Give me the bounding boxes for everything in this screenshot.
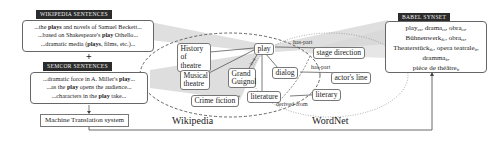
node-musical-theatre: Musical theatre bbox=[180, 70, 210, 90]
plus-sign: + bbox=[86, 51, 92, 62]
region-label-wikipedia: Wikipedia bbox=[172, 115, 213, 126]
semcor-sentences-tag: SemCor sentences bbox=[43, 62, 112, 71]
babel-synset-box: playen, dramaes, obraes, Bühnenwerkde, o… bbox=[385, 21, 487, 73]
node-actors-line: actor's line bbox=[331, 72, 371, 84]
node-dialog: dialog bbox=[272, 67, 298, 79]
node-crime-fiction: Crime fiction bbox=[191, 95, 239, 107]
babel-line-1: playen, dramaes, obraes, bbox=[389, 24, 483, 34]
node-history-of-theatre: History of theatre bbox=[177, 43, 211, 72]
semcor-sentence-3: ...characters in the play take... bbox=[35, 92, 143, 100]
wikipedia-sentences-tag: Wikipedia sentences bbox=[36, 10, 112, 19]
wikipedia-sentence-2: ...based on Shakespeare's play Othello..… bbox=[27, 31, 149, 39]
semcor-sentence-1: ...dramatic force in A. Miller's play... bbox=[35, 75, 143, 83]
babel-line-3: Theaterstückde, opera teatraleit, dramma… bbox=[389, 44, 483, 64]
node-stage-direction: stage direction bbox=[313, 47, 365, 59]
node-grand-guignol: Grand Guignol bbox=[228, 68, 256, 88]
wikipedia-sentences-box: ...the plays and novels of Samuel Becket… bbox=[22, 20, 154, 52]
region-label-wordnet: WordNet bbox=[312, 115, 348, 126]
node-play: play bbox=[254, 43, 274, 55]
babel-line-2: Bühnenwerkde, obraca, bbox=[389, 34, 483, 44]
edge-label-derived-from: derived-from bbox=[276, 101, 308, 108]
machine-translation-box: Machine Translation system bbox=[40, 114, 129, 127]
node-literary: literary bbox=[312, 89, 341, 101]
wikipedia-sentence-3: ...dramatic media (plays, films, etc.)..… bbox=[27, 40, 149, 48]
semcor-sentence-2: ...as the play opens the audience... bbox=[35, 83, 143, 91]
semcor-sentences-box: ...dramatic force in A. Miller's play...… bbox=[30, 72, 148, 104]
diagram-canvas: Wikipedia sentences ...the plays and nov… bbox=[0, 0, 497, 144]
edge-play-dialog bbox=[265, 53, 278, 68]
edge-label-has-part-1: has-part bbox=[293, 39, 312, 46]
wikipedia-sentence-1: ...the plays and novels of Samuel Becket… bbox=[27, 23, 149, 31]
babel-line-4: pièce de théâtrefr bbox=[389, 64, 483, 74]
edge-label-has-part-2: has-part bbox=[311, 64, 330, 71]
